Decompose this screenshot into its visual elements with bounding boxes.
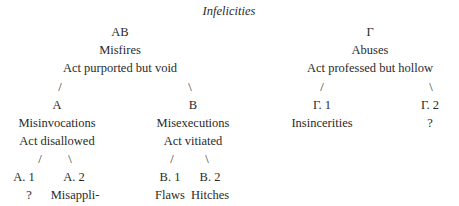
node-g2-code: Γ. 2 [421,98,439,112]
edge-b-b2: \ [205,152,208,166]
node-g1-code: Γ. 1 [313,98,331,112]
edge-ab-b: \ [188,80,191,94]
node-a-name: Misinvocations [18,116,95,130]
edge-b-b1: / [170,152,173,166]
node-b-name: Misexecutions [157,116,230,130]
node-a1-name: ? [26,188,32,202]
node-a2-name-line1: Misappli- [51,188,100,202]
node-g2-name: ? [427,116,433,130]
node-a2-code: A. 2 [63,170,85,184]
edge-a-a2: \ [68,152,71,166]
node-b2-name: Hitches [191,188,229,202]
node-b-desc: Act vitiated [164,134,223,148]
node-gamma-name: Abuses [352,43,389,57]
node-a-desc: Act disallowed [19,134,94,148]
node-b1-code: B. 1 [160,170,181,184]
node-ab-desc: Act purported but void [63,61,177,75]
node-ab-name: Misfires [99,43,141,57]
node-ab-code: AB [111,25,128,39]
edge-gamma-g2: \ [429,80,432,94]
node-gamma-code: Γ [366,25,373,39]
node-g1-name: Insincerities [291,116,352,130]
node-b-code: B [189,98,197,112]
edge-gamma-g1: / [320,80,323,94]
node-gamma-desc: Act professed but hollow [307,61,433,75]
node-a2-name-line2: cations [57,203,92,206]
edge-ab-a: / [58,80,61,94]
node-b1-name: Flaws [155,188,185,202]
node-b2-code: B. 2 [200,170,221,184]
diagram-title: Infelicities [203,4,256,18]
node-a-code: A [52,98,61,112]
edge-a-a1: / [38,152,41,166]
node-a1-code: A. 1 [13,170,35,184]
